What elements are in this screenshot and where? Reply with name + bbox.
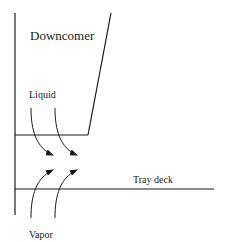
- tray-deck-label: Tray deck: [133, 174, 173, 185]
- downcomer-label: Downcomer: [30, 28, 95, 43]
- vapor-arrow-icon: [31, 170, 53, 218]
- tray-diagram: Downcomer Liquid Vapor Tray deck: [0, 0, 229, 242]
- vapor-arrow-icon: [55, 170, 77, 218]
- vapor-label: Vapor: [29, 229, 54, 240]
- liquid-arrow-icon: [31, 108, 53, 155]
- liquid-arrow-icon: [55, 108, 77, 155]
- liquid-label: Liquid: [29, 89, 56, 100]
